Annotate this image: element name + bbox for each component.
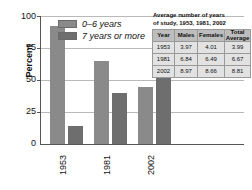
cell-females-1953: 4.01 — [198, 42, 225, 54]
table-row: 2002 8.97 8.66 8.81 — [153, 66, 251, 78]
bar-chart: Percent 100 75 50 25 0 1953 1981 2 — [0, 0, 252, 190]
y-axis-tick-100: 100 — [8, 12, 36, 20]
inset-table-title-line2: of study, 1953, 1981, 2002 — [153, 20, 250, 28]
table-header-year: Year — [153, 30, 175, 42]
cell-year-1953: 1953 — [153, 42, 175, 54]
x-axis-label-1981: 1981 — [102, 150, 112, 180]
cell-males-1981: 6.84 — [175, 54, 198, 66]
cell-females-2002: 8.66 — [198, 66, 225, 78]
legend-label-0-6-years: 0–6 years — [82, 19, 122, 29]
bar-1953-7-years-or-more — [68, 126, 83, 144]
y-axis-tick-75: 75 — [8, 43, 36, 51]
x-axis-label-2002: 2002 — [146, 150, 156, 180]
y-axis-tick-50: 50 — [8, 75, 36, 83]
table-row: 1981 6.84 6.49 6.67 — [153, 54, 251, 66]
table-header-row: Year Males Females Total Average — [153, 30, 251, 42]
inset-table-title: Average number of years of study, 1953, … — [152, 12, 250, 27]
legend-swatch-7-years-or-more — [58, 32, 77, 40]
cell-total-2002: 8.81 — [225, 66, 251, 78]
y-axis-tick-25: 25 — [8, 107, 36, 115]
inset-table-title-line1: Average number of years — [153, 12, 250, 20]
bar-1981-0-6-years — [94, 61, 109, 144]
cell-males-1953: 3.97 — [175, 42, 198, 54]
cell-total-1953: 3.99 — [225, 42, 251, 54]
y-axis-tick-0: 0 — [8, 139, 36, 147]
table-header-males: Males — [175, 30, 198, 42]
table-header-females: Females — [198, 30, 225, 42]
bar-1981-7-years-or-more — [112, 93, 127, 144]
legend-item-7-years-or-more: 7 years or more — [58, 30, 150, 41]
cell-males-2002: 8.97 — [175, 66, 198, 78]
table-header-total-average: Total Average — [225, 30, 251, 42]
legend-label-7-years-or-more: 7 years or more — [82, 31, 145, 41]
cell-females-1981: 6.49 — [198, 54, 225, 66]
table-header-total-line2: Average — [226, 35, 249, 41]
x-axis-label-1953: 1953 — [58, 150, 68, 180]
cell-year-1981: 1981 — [153, 54, 175, 66]
table-row: 1953 3.97 4.01 3.99 — [153, 42, 251, 54]
cell-total-1981: 6.67 — [225, 54, 251, 66]
bar-1953-0-6-years — [50, 26, 65, 143]
chart-legend: 0–6 years 7 years or more — [58, 18, 150, 42]
x-axis-line — [41, 144, 244, 146]
legend-item-0-6-years: 0–6 years — [58, 18, 150, 29]
cell-year-2002: 2002 — [153, 66, 175, 78]
bar-2002-0-6-years — [138, 87, 153, 143]
inset-data-table: Average number of years of study, 1953, … — [152, 12, 250, 78]
averages-table: Year Males Females Total Average 1953 3.… — [152, 29, 251, 78]
legend-swatch-0-6-years — [58, 20, 77, 28]
